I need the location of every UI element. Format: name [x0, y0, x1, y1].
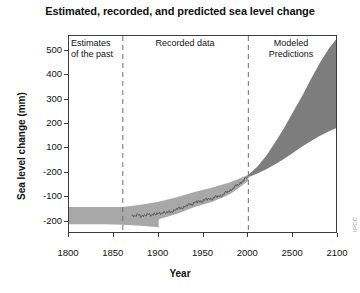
- panel-label-predictions-line2: Predictions: [269, 49, 314, 59]
- x-tick-label: 1850: [93, 247, 133, 258]
- x-tick-mark: [203, 233, 204, 237]
- chart-title: Estimated, recorded, and predicted sea l…: [0, 5, 360, 17]
- y-tick-label: 500: [28, 44, 62, 55]
- plot-area: Estimates of the past Recorded data Mode…: [68, 35, 337, 233]
- panel-label-estimates-line2: of the past: [71, 49, 113, 59]
- y-tick-label: 100: [28, 141, 62, 152]
- x-tick-mark: [337, 233, 338, 237]
- chart-root: Estimated, recorded, and predicted sea l…: [0, 0, 360, 293]
- plot-graphics: [69, 36, 337, 233]
- x-tick-mark: [158, 233, 159, 237]
- panel-label-estimates: Estimates of the past: [71, 38, 125, 59]
- y-tick-label: 300: [28, 93, 62, 104]
- y-tick-label: -100: [28, 190, 62, 201]
- x-axis-title: Year: [0, 268, 360, 279]
- x-tick-mark: [113, 233, 114, 237]
- y-tick-label: 200: [28, 117, 62, 128]
- y-tick-label: -200: [28, 215, 62, 226]
- x-tick-label: 2500: [272, 247, 312, 258]
- series-band: [123, 175, 249, 225]
- panel-label-predictions-line1: Modeled: [274, 38, 309, 48]
- x-tick-mark: [292, 233, 293, 237]
- chart-credit: IPCC: [352, 216, 358, 232]
- x-tick-mark: [247, 233, 248, 237]
- x-tick-mark: [68, 233, 69, 237]
- series-layer: [69, 37, 337, 227]
- y-axis-title: Sea level change (mm): [16, 92, 27, 200]
- y-tick-label: 400: [28, 68, 62, 79]
- x-tick-label: 1900: [138, 247, 178, 258]
- x-tick-label: 1800: [48, 247, 88, 258]
- x-tick-label: 2000: [227, 247, 267, 258]
- panel-label-estimates-line1: Estimates: [71, 38, 111, 48]
- panel-label-predictions: Modeled Predictions: [254, 38, 328, 59]
- x-tick-label: 2100: [317, 247, 357, 258]
- panel-label-recorded: Recorded data: [131, 38, 239, 49]
- x-tick-label: 1950: [183, 247, 223, 258]
- y-tick-label: -200: [28, 166, 62, 177]
- panel-label-recorded-line1: Recorded data: [155, 38, 214, 48]
